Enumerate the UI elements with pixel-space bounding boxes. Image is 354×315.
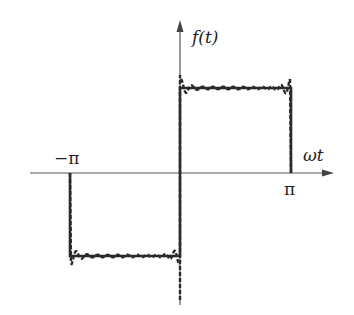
neg-pi-label: −π	[54, 150, 79, 167]
y-axis-arrow-icon	[177, 20, 184, 32]
x-axis-arrow-icon	[322, 170, 334, 177]
pos-pi-label: π	[284, 181, 295, 198]
y-axis-label: f(t)	[192, 29, 218, 46]
x-axis-label: ωt	[303, 147, 324, 164]
